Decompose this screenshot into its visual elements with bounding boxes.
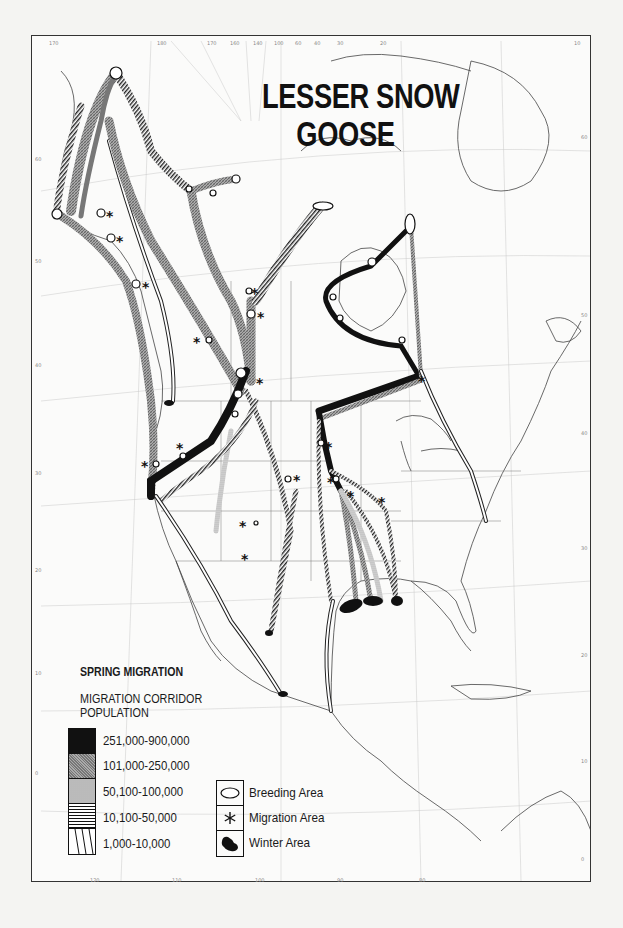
svg-text:*: * [251,285,259,301]
svg-text:*: * [116,233,124,249]
population-label: 1,000-10,000 [103,836,170,851]
winter-area-label: Winter Area [249,835,310,850]
lat-tick: 30 [35,470,41,476]
lat-tick: 50 [581,312,587,318]
lon-tick: 40 [314,40,320,46]
lat-tick: 20 [581,652,587,658]
svg-text:*: * [293,472,301,488]
population-label: 10,100-50,000 [103,810,177,825]
lat-tick: 0 [581,856,584,862]
lon-tick: 90 [337,877,343,883]
lat-tick: 0 [35,770,38,776]
svg-text:*: * [257,309,265,325]
lat-tick: 50 [35,258,41,264]
lat-tick: 20 [35,567,41,573]
population-legend-swatches [68,728,96,855]
lat-tick: 30 [581,545,587,551]
lon-tick: 180 [157,40,167,46]
lon-tick: 100 [274,40,284,46]
corridor-heading-line-2: POPULATION [80,706,149,720]
swatch-gray-crosshatch [69,754,95,779]
map-title: LESSER SNOW GOOSE [262,77,426,153]
swatch-solid-black [69,729,95,754]
north-america-map: * * * * * * * * * * * * * * * * * [32,36,591,882]
lon-tick: 80 [419,877,425,883]
area-symbol-legend [216,780,244,857]
svg-text:*: * [141,458,149,474]
corridor-banks-hatched [256,206,321,301]
swatch-stipple [69,779,95,804]
migration-corridors [56,73,486,711]
ellipse-outline-icon [217,781,243,806]
winter-areas [148,400,403,697]
black-blob-icon [217,831,243,856]
corridor-heading-line-1: MIGRATION CORRIDOR [80,692,202,706]
swatch-diagonal-lines [69,829,95,854]
svg-text:*: * [418,373,426,389]
lon-tick: 10 [574,40,580,46]
title-line-2: GOOSE [262,115,426,153]
lat-tick: 10 [581,758,587,764]
population-label: 50,100-100,000 [103,784,183,799]
lat-tick: 10 [35,670,41,676]
corridor-hudson-bay-main [326,226,419,376]
lon-tick: 30 [337,40,343,46]
population-label: 251,000-900,000 [103,733,190,748]
season-heading: SPRING MIGRATION [80,665,183,679]
svg-text:*: * [378,494,386,510]
lat-tick: 60 [35,156,41,162]
lat-tick: 40 [35,362,41,368]
svg-text:*: * [142,279,150,295]
svg-text:*: * [106,208,114,224]
migration-area-label: Migration Area [249,810,324,825]
svg-text:*: * [347,488,355,504]
lon-tick: 140 [253,40,263,46]
lon-tick: 170 [207,40,217,46]
lon-tick: 170 [49,40,59,46]
lon-tick: 110 [172,877,182,883]
svg-text:*: * [193,334,201,350]
map-frame: * * * * * * * * * * * * * * * * * [31,35,591,882]
population-label: 101,000-250,000 [103,758,190,773]
breeding-area-label: Breeding Area [249,785,323,800]
svg-text:*: * [176,440,184,456]
svg-text:*: * [256,375,264,391]
svg-text:*: * [239,518,247,534]
lat-tick: 60 [581,134,587,140]
title-line-1: LESSER SNOW [262,77,426,115]
swatch-horizontal-lines [69,804,95,829]
svg-text:*: * [327,474,335,490]
lon-tick: 120 [90,877,100,883]
svg-text:*: * [241,551,249,567]
lat-tick: 40 [581,430,587,436]
lon-tick: 160 [230,40,240,46]
lon-tick: 100 [255,877,265,883]
svg-text:*: * [325,439,333,455]
lon-tick: 60 [295,40,301,46]
lon-tick: 20 [380,40,386,46]
asterisk-icon [217,806,243,831]
